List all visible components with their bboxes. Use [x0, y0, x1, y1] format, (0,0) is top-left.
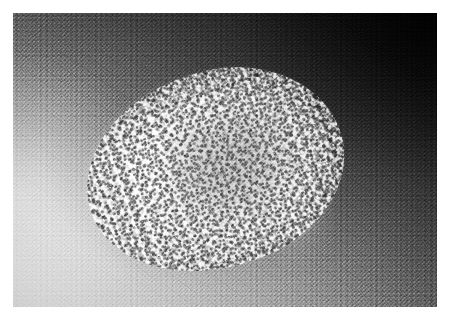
photograph-plate — [13, 13, 437, 307]
image-canvas — [0, 0, 449, 321]
vignette-overlay — [13, 13, 437, 307]
